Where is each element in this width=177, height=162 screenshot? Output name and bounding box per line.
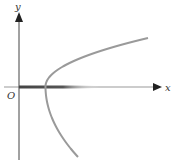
x-axis-highlight xyxy=(19,86,99,89)
y-axis-arrow-icon xyxy=(15,12,23,22)
parabola-curve xyxy=(46,38,149,157)
x-axis-arrow-icon xyxy=(153,83,162,91)
coordinate-plot: y x O xyxy=(0,0,177,162)
figure: y x O xyxy=(0,0,177,162)
x-axis-label: x xyxy=(165,82,171,93)
y-axis-label: y xyxy=(14,1,21,12)
origin-label: O xyxy=(7,90,15,101)
